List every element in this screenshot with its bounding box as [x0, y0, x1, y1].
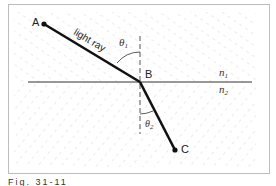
label-a: A [32, 16, 40, 28]
point-c [172, 147, 177, 152]
figure-caption: Fig. 31-11 [8, 177, 68, 186]
medium-2-region [14, 83, 256, 167]
label-b: B [145, 68, 152, 80]
refraction-diagram: A B C light ray θ1 θ2 n1 n2 [0, 0, 276, 186]
point-a [41, 21, 46, 26]
label-c: C [181, 143, 189, 155]
